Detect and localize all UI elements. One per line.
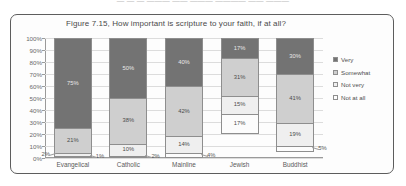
x-axis-labels: EvangelicalCatholicMainlineJewishBuddhis… xyxy=(45,161,323,168)
bar-segment-value: 75% xyxy=(67,81,79,87)
bar-segment: 40% xyxy=(165,38,203,86)
y-axis-tick-label: 90% xyxy=(30,47,42,54)
bar-segment-callout: 5% xyxy=(318,146,326,152)
y-axis-tick-label: 40% xyxy=(30,107,42,114)
bar-segment-value: 41% xyxy=(289,96,301,102)
bar-segment-value: 21% xyxy=(67,138,79,144)
y-axis-tick-label: 50% xyxy=(30,95,42,102)
bar-group: 75%21%2%2%1%1%50%38%10%2%2%40%42%14%4%4%… xyxy=(45,38,323,158)
chart-legend: VerySomewhatNot veryNot at all xyxy=(333,56,370,101)
legend-item-label: Somewhat xyxy=(341,69,370,76)
legend-item-label: Not very xyxy=(341,81,364,88)
bar-segment-value: 10% xyxy=(123,147,135,153)
bar-segment-value: 40% xyxy=(178,60,190,66)
plot-area: 0%10%20%30%40%50%60%70%80%90%100% 75%21%… xyxy=(45,38,323,158)
bar-segment: 5%5% xyxy=(276,146,314,152)
bar-segment: 15% xyxy=(221,96,259,114)
bar-column: 17%31%15%17% xyxy=(212,38,268,158)
bar-segment: 14% xyxy=(165,136,203,153)
bar-segment-value: 17% xyxy=(234,46,246,52)
x-axis-category-label: Mainline xyxy=(156,161,212,168)
bar-segment: 75% xyxy=(54,38,92,128)
x-axis-category-label: Jewish xyxy=(212,161,268,168)
chart-title: Figure 7.15, How important is scripture … xyxy=(11,19,341,28)
bar-column: 40%42%14%4%4% xyxy=(156,38,212,158)
bar-segment: 41% xyxy=(276,74,314,123)
bar-segment: 50% xyxy=(109,38,147,98)
bar-segment-value: 15% xyxy=(234,102,246,108)
legend-swatch-icon xyxy=(333,82,338,87)
legend-item[interactable]: Not at all xyxy=(333,94,370,101)
bar-segment-value: 31% xyxy=(234,75,246,81)
legend-item-label: Not at all xyxy=(341,94,365,101)
y-axis-tick-mark xyxy=(42,158,45,159)
legend-swatch-icon xyxy=(333,70,338,75)
bar-column: 75%21%2%2%1%1% xyxy=(45,38,101,158)
x-axis-category-label: Buddhist xyxy=(267,161,323,168)
stacked-bar: 75%21%2%2%1%1% xyxy=(54,38,92,158)
bar-segment-value: 38% xyxy=(123,118,135,124)
stacked-bar: 17%31%15%17% xyxy=(221,38,259,158)
y-axis-tick-label: 30% xyxy=(30,119,42,126)
stacked-bar: 40%42%14%4%4% xyxy=(165,38,203,158)
y-axis-tick-label: 20% xyxy=(30,131,42,138)
bar-segment-value: 14% xyxy=(178,142,190,148)
bar-segment: 30% xyxy=(276,38,314,74)
x-axis-category-label: Catholic xyxy=(101,161,157,168)
x-axis-category-label: Evangelical xyxy=(45,161,101,168)
bar-segment: 19% xyxy=(276,123,314,146)
legend-item[interactable]: Very xyxy=(333,56,370,63)
callout-leader-line xyxy=(312,148,319,151)
bar-segment-value: 17% xyxy=(234,121,246,127)
bar-segment: 42% xyxy=(165,86,203,136)
y-axis-tick-label: 70% xyxy=(30,71,42,78)
bar-segment: 17% xyxy=(221,38,259,58)
bar-segment: 10% xyxy=(109,144,147,156)
legend-item[interactable]: Somewhat xyxy=(333,69,370,76)
bar-column: 50%38%10%2%2% xyxy=(101,38,157,158)
legend-item-label: Very xyxy=(341,56,353,63)
bar-segment: 31% xyxy=(221,58,259,95)
bar-column: 30%41%19%5%5% xyxy=(267,38,323,158)
y-axis-tick-label: 10% xyxy=(30,143,42,150)
bar-segment: 17% xyxy=(221,114,259,134)
stacked-bar: 30%41%19%5%5% xyxy=(276,38,314,158)
bar-segment: 38% xyxy=(109,98,147,144)
legend-swatch-icon xyxy=(333,95,338,100)
legend-item[interactable]: Not very xyxy=(333,81,370,88)
bar-segment-value: 19% xyxy=(289,132,301,138)
bar-segment-value: 30% xyxy=(289,54,301,60)
y-axis-tick-label: 60% xyxy=(30,83,42,90)
y-axis-tick-label: 80% xyxy=(30,59,42,66)
bar-segment: 21% xyxy=(54,128,92,153)
stacked-bar: 50%38%10%2%2% xyxy=(109,38,147,158)
y-axis-tick-label: 100% xyxy=(26,35,42,42)
bar-segment: 4%4% xyxy=(165,153,203,158)
legend-swatch-icon xyxy=(333,57,338,62)
bar-segment-value: 50% xyxy=(123,66,135,72)
figure-container: Figure 7.15, How important is scripture … xyxy=(10,14,394,174)
page-cutoff-text: — — — ——— —— ——— ———— —— ——— xyxy=(0,0,406,13)
bar-segment: 2%2% xyxy=(109,156,147,158)
bar-segment-value: 42% xyxy=(178,109,190,115)
gridline xyxy=(45,158,323,159)
bar-segment: 1%1% xyxy=(54,156,92,158)
